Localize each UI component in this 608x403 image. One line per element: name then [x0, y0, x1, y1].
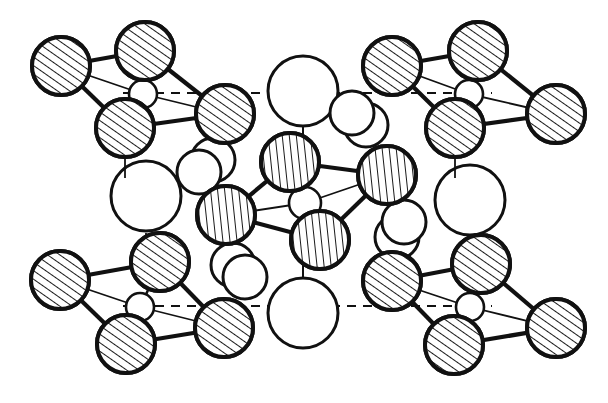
tetrahedron-center-vertex-bottom	[291, 211, 349, 269]
tetrahedron-top-left-vertex-right	[196, 85, 254, 143]
crystal-structure-figure	[0, 0, 608, 403]
large-cation-mid-left	[111, 161, 181, 231]
tetrahedron-top-left-vertex-bottom	[96, 99, 154, 157]
tetrahedron-top-right-vertex-right	[527, 85, 585, 143]
tetrahedron-top-left-vertex-top	[116, 22, 174, 80]
tetrahedron-bottom-right-vertex-bottom	[425, 316, 483, 374]
pair-upper-right-front	[330, 91, 374, 135]
large-cation-top-center	[268, 56, 338, 126]
tetrahedron-bottom-left-vertex-left	[31, 251, 89, 309]
crystal-structure-canvas	[0, 0, 608, 403]
pair-lower-left-front	[223, 255, 267, 299]
tetrahedron-center-vertex-right	[358, 146, 416, 204]
tetrahedron-bottom-left-vertex-top	[131, 233, 189, 291]
tetrahedron-top-right-vertex-left	[363, 37, 421, 95]
tetrahedron-top-right-vertex-bottom	[426, 99, 484, 157]
large-cation-mid-right	[435, 165, 505, 235]
tetrahedron-bottom-right-vertex-right	[527, 299, 585, 357]
tetrahedron-bottom-right-vertex-left	[363, 252, 421, 310]
large-cation-bottom-center	[268, 278, 338, 348]
tetrahedron-center-vertex-left	[197, 186, 255, 244]
pair-lower-right-front	[382, 200, 426, 244]
tetrahedron-bottom-right-vertex-top	[452, 235, 510, 293]
tetrahedron-top-right-vertex-top	[449, 22, 507, 80]
tetrahedron-top-left-vertex-left	[32, 37, 90, 95]
tetrahedron-bottom-left-vertex-bottom	[97, 315, 155, 373]
tetrahedron-center-vertex-top	[261, 133, 319, 191]
tetrahedron-bottom-left-vertex-right	[195, 299, 253, 357]
